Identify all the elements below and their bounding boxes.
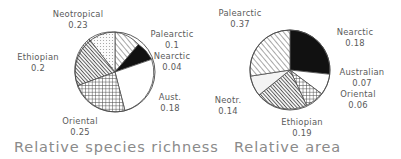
right-label-nearctic-value: 0.18: [345, 38, 365, 48]
left-label-nearctic-value: 0.04: [162, 62, 182, 72]
right-pie-chart: Palearctic 0.37 Nearctic 0.18 Australian…: [215, 8, 385, 155]
right-label-neotropical-value: 0.14: [218, 106, 238, 116]
left-label-ethiopian-name: Ethiopian: [17, 52, 59, 62]
left-label-nearctic-name: Nearctic: [154, 51, 191, 61]
left-label-neotropical-value: 0.23: [68, 20, 88, 30]
right-label-ethiopian-name: Ethiopian: [281, 117, 323, 127]
right-label-oriental-value: 0.06: [348, 100, 368, 110]
left-label-oriental-name: Oriental: [62, 116, 98, 126]
right-label-neotropical-name: Neotr.: [215, 95, 242, 105]
left-label-australian-name: Aust.: [159, 92, 182, 102]
left-label-palearctic-value: 0.1: [165, 40, 179, 50]
right-label-australian-name: Australian: [340, 67, 385, 77]
left-label-ethiopian-value: 0.2: [31, 63, 45, 73]
left-label-palearctic-name: Palearctic: [151, 29, 194, 39]
left-label-australian-value: 0.18: [160, 103, 180, 113]
right-pie-wedges: [250, 30, 330, 110]
right-chart-caption: Relative area: [234, 139, 341, 155]
right-label-nearctic-name: Nearctic: [337, 27, 374, 37]
wedge-palearctic-right[interactable]: [250, 30, 290, 76]
wedge-nearctic-right[interactable]: [290, 30, 330, 74]
left-chart-caption: Relative species richness: [14, 139, 219, 155]
left-label-oriental-value: 0.25: [70, 127, 90, 137]
left-label-neotropical-name: Neotropical: [53, 9, 104, 19]
left-pie-wedges: [75, 32, 155, 112]
right-label-palearctic-value: 0.37: [230, 19, 250, 29]
pie-chart-figure: Neotropical 0.23 Ethiopian 0.2 Oriental …: [0, 0, 401, 159]
right-label-oriental-name: Oriental: [340, 89, 376, 99]
right-label-ethiopian-value: 0.19: [292, 128, 312, 138]
right-label-palearctic-name: Palearctic: [219, 8, 262, 18]
right-label-australian-value: 0.07: [352, 78, 372, 88]
left-pie-chart: Neotropical 0.23 Ethiopian 0.2 Oriental …: [14, 9, 219, 155]
